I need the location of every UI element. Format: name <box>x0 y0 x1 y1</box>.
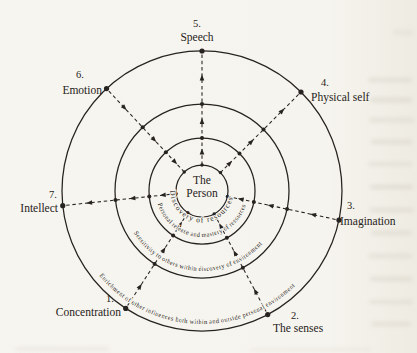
arrowhead-outward-speech <box>200 118 205 124</box>
arrowhead-inward-emotion <box>151 136 157 142</box>
center-label-line2: Person <box>186 187 218 199</box>
label-number-intellect: 7. <box>49 189 57 200</box>
arrowhead-outward-intellect <box>160 193 166 198</box>
node-dot-concentration <box>123 306 128 311</box>
arrowhead-inward-imagination <box>238 198 244 202</box>
node-dot-physical-self <box>298 89 303 94</box>
label-number-the-senses: 2. <box>291 310 299 321</box>
node-dot-emotion <box>104 86 109 91</box>
node-dot-speech <box>200 163 203 166</box>
center-label-line1: The <box>193 174 211 186</box>
person-development-wheel-diagram: Discovery of resourcesPersonal release a… <box>0 0 417 353</box>
node-dot-emotion <box>141 125 145 129</box>
label-number-speech: 5. <box>193 18 201 29</box>
node-dot-speech <box>200 136 204 140</box>
node-dot-imagination <box>252 200 256 204</box>
arrowhead-outward-intellect <box>86 200 92 205</box>
node-dot-speech <box>200 102 204 106</box>
scanned-book-page: Discovery of resourcesPersonal release a… <box>0 0 417 353</box>
arrowhead-outward-speech <box>200 75 205 81</box>
node-dot-concentration <box>171 233 175 237</box>
label-number-emotion: 6. <box>76 69 84 80</box>
node-dot-imagination <box>285 207 289 211</box>
arrowhead-inward-imagination <box>268 204 274 208</box>
node-dot-speech <box>199 48 204 53</box>
node-dot-intellect <box>60 203 65 208</box>
node-dot-intellect <box>113 198 117 202</box>
label-intellect: Intellect <box>20 202 58 214</box>
spoke-line-physical-self <box>220 92 301 173</box>
node-dot-emotion <box>183 170 186 173</box>
node-dot-the-senses <box>241 266 245 270</box>
node-dot-physical-self <box>219 171 222 174</box>
label-physical-self: Physical self <box>311 91 370 104</box>
label-number-concentration: 1. <box>106 293 114 304</box>
arrowhead-inward-the-senses <box>233 250 238 256</box>
label-emotion: Emotion <box>62 84 102 96</box>
node-dot-intellect <box>147 195 151 199</box>
label-concentration: Concentration <box>56 306 121 318</box>
label-speech: Speech <box>180 31 213 44</box>
label-the-senses: The senses <box>273 322 324 334</box>
label-imagination: Imagination <box>340 215 396 228</box>
arrowhead-inward-the-senses <box>254 289 259 295</box>
spoke-line-emotion <box>107 89 185 172</box>
arrowhead-outward-intellect <box>129 196 135 201</box>
node-dot-the-senses <box>265 312 270 317</box>
node-dot-the-senses <box>225 236 229 240</box>
arrowhead-inward-concentration <box>160 247 165 253</box>
node-dot-physical-self <box>262 127 266 131</box>
node-dot-concentration <box>153 262 157 266</box>
label-number-physical-self: 4. <box>321 77 329 88</box>
label-number-imagination: 3. <box>347 200 355 211</box>
arrowhead-outward-speech <box>200 149 205 155</box>
arrowhead-inward-emotion <box>171 158 177 164</box>
arrowhead-inward-concentration <box>137 284 142 290</box>
ring-text-enrichment: Enrichment of other influences both with… <box>98 272 296 325</box>
node-dot-physical-self <box>237 152 241 156</box>
node-dot-emotion <box>164 150 168 154</box>
